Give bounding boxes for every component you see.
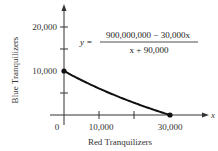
data-curve bbox=[64, 71, 170, 115]
x-axis-arrow-icon bbox=[202, 113, 209, 118]
equation-denominator: x + 90,000 bbox=[130, 45, 169, 55]
equation-lhs: y = bbox=[79, 37, 92, 47]
x-axis-var: x bbox=[210, 110, 215, 120]
y-tick-label: 10,000 bbox=[32, 66, 57, 76]
y-axis-title: Blue Tranquilizers bbox=[10, 36, 20, 103]
x-tick-label: 30,000 bbox=[158, 122, 183, 132]
x-tick-label: 10,000 bbox=[89, 122, 114, 132]
x-tick-label: 0 bbox=[55, 122, 60, 132]
equation-numerator: 900,000,000 − 30,000x bbox=[106, 30, 190, 40]
data-point-start bbox=[61, 68, 66, 73]
chart: 20,000 10,000 0 10,000 30,000 x Red Tran… bbox=[0, 0, 218, 151]
y-axis-arrow-icon bbox=[62, 4, 67, 11]
x-axis-title: Red Tranquilizers bbox=[88, 137, 153, 147]
y-tick-label: 20,000 bbox=[32, 22, 57, 32]
data-point-end bbox=[167, 112, 172, 117]
